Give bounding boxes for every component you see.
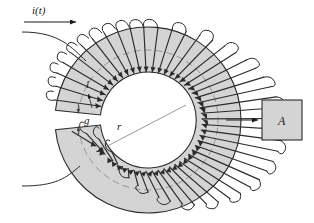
current-label: i(t): [32, 4, 46, 17]
current-indicator: i(t): [24, 4, 76, 22]
mean-path-label: l: [86, 78, 89, 90]
area-label: A: [277, 114, 286, 128]
figure-canvas: g l r i(t) A: [0, 0, 314, 223]
gap-label: g: [84, 114, 90, 126]
radius-indicator: r: [96, 105, 186, 152]
radius-line: [96, 105, 186, 152]
toroid-inductor-figure: g l r i(t) A: [0, 0, 314, 223]
radius-label: r: [117, 120, 122, 132]
